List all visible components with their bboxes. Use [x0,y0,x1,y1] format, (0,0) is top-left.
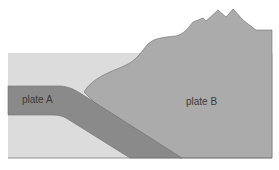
diagram-canvas [0,0,279,170]
subduction-diagram: plate A plate B [0,0,279,170]
plate-a-label: plate A [22,94,53,105]
plate-b-label: plate B [186,96,217,107]
